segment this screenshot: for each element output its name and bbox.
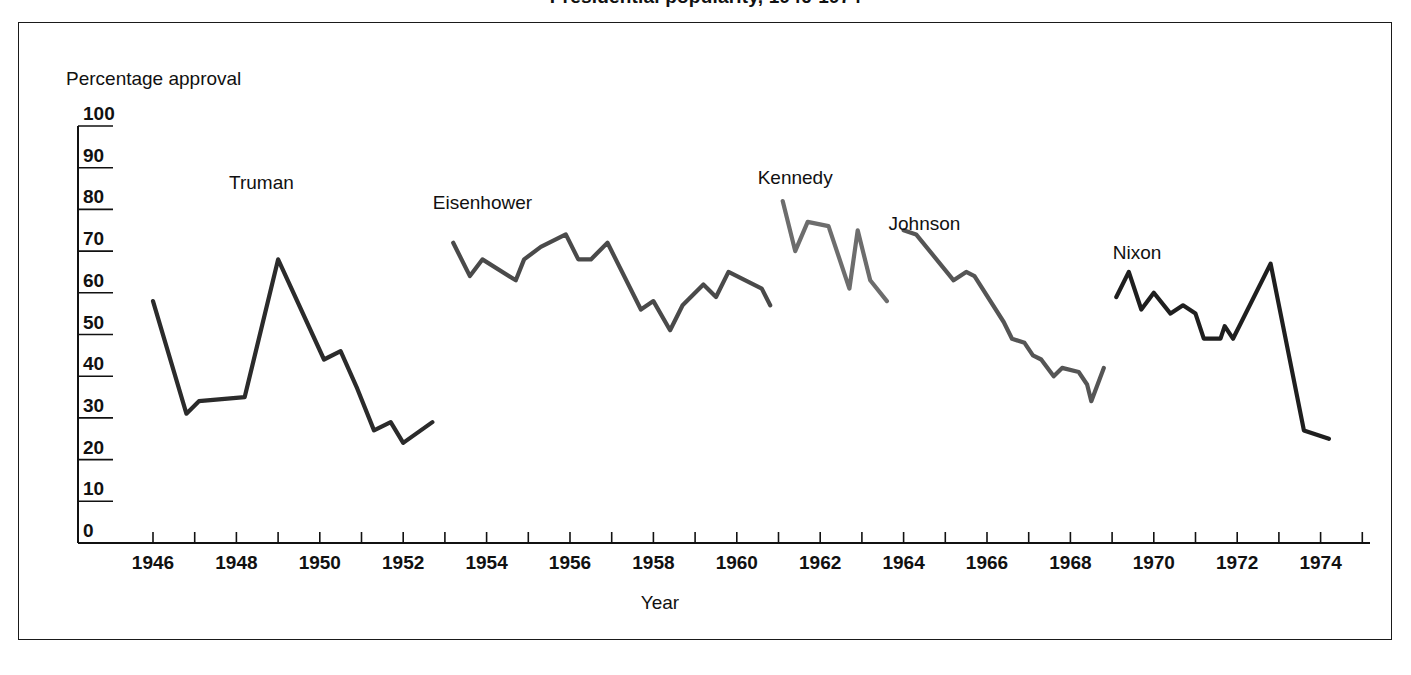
x-tick-label: 1962 [799,552,841,573]
x-tick-label: 1950 [299,552,341,573]
x-tick-label: 1954 [465,552,508,573]
series-label-johnson: Johnson [889,213,961,234]
x-tick-label: 1958 [632,552,674,573]
x-tick-label: 1972 [1216,552,1258,573]
series-line-kennedy [783,201,887,301]
y-tick-label: 90 [83,145,104,166]
chart-plot-area: 0102030405060708090100Percentage approva… [0,0,1411,675]
series-label-eisenhower: Eisenhower [433,192,533,213]
series-line-eisenhower [453,234,770,330]
y-tick-label: 30 [83,395,104,416]
x-tick-label: 1956 [549,552,591,573]
y-tick-label: 60 [83,270,104,291]
x-tick-label: 1964 [882,552,925,573]
x-tick-label: 1960 [716,552,758,573]
figure-container: Presidential popularity, 1946-1974 01020… [0,0,1411,675]
y-tick-label: 100 [83,103,115,124]
y-axis-title: Percentage approval [66,68,241,89]
x-tick-label: 1946 [132,552,174,573]
x-tick-label: 1948 [215,552,257,573]
series-line-nixon [1116,264,1329,439]
y-tick-label: 0 [83,520,94,541]
y-tick-label: 80 [83,186,104,207]
series-label-nixon: Nixon [1113,242,1162,263]
y-tick-label: 70 [83,228,104,249]
x-tick-label: 1968 [1049,552,1091,573]
x-axis-title: Year [641,592,680,613]
x-tick-label: 1952 [382,552,424,573]
y-tick-label: 50 [83,312,104,333]
x-tick-label: 1966 [966,552,1008,573]
series-label-kennedy: Kennedy [758,167,834,188]
series-line-johnson [904,230,1104,401]
y-tick-label: 20 [83,437,104,458]
y-tick-label: 10 [83,478,104,499]
series-label-truman: Truman [229,172,294,193]
x-tick-label: 1970 [1133,552,1175,573]
y-tick-label: 40 [83,353,104,374]
x-tick-label: 1974 [1299,552,1342,573]
series-line-truman [153,259,432,443]
